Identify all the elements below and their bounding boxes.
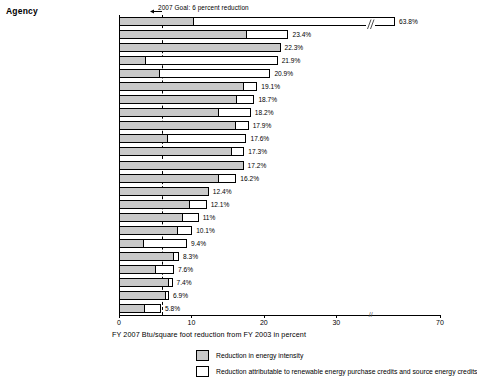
bar-segment-renewable-credits [236, 95, 254, 104]
bar-value-label: 16.2% [240, 174, 259, 183]
bar-segment-renewable-credits [177, 226, 192, 235]
bar-value-label: 12.4% [213, 187, 232, 196]
chart-legend: Reduction in energy intensity Reduction … [196, 350, 477, 382]
bar-segment-renewable-credits [235, 121, 249, 130]
bar-value-label: 23.4% [293, 30, 312, 39]
legend-label-intensity: Reduction in energy intensity [216, 352, 303, 359]
bar-segment-renewable-credits [218, 174, 237, 183]
bar-segment-renewable-credits [173, 252, 179, 261]
x-axis-line [119, 315, 440, 316]
stacked-bar [119, 304, 161, 313]
x-axis-tick [336, 315, 337, 318]
stacked-bar [119, 291, 169, 300]
bar-value-label: 21.9% [282, 56, 301, 65]
bar-segment-energy-intensity [119, 239, 143, 248]
bar-segment-energy-intensity [119, 200, 189, 209]
bar-value-label: 11% [203, 213, 216, 222]
bar-segment-energy-intensity [119, 69, 159, 78]
bar-segment-renewable-credits [168, 278, 173, 287]
stacked-bar [119, 161, 244, 170]
bar-segment-renewable-credits [193, 17, 395, 26]
goal-annotation-label: 2007 Goal: 6 percent reduction [158, 4, 249, 11]
plot-area: EPA63.8%Interior23.4%Commerce22.3%Transp… [119, 15, 440, 315]
bar-segment-renewable-credits [189, 200, 207, 209]
bar-value-label: 19.1% [261, 82, 280, 91]
bar-segment-energy-intensity [119, 82, 243, 91]
bar-segment-energy-intensity [119, 278, 168, 287]
legend-swatch-credits-icon [196, 366, 209, 377]
stacked-bar [119, 43, 281, 52]
bar-value-label: 9.4% [191, 239, 206, 248]
x-axis-tick-label: 10 [188, 319, 196, 326]
stacked-bar [119, 82, 257, 91]
bar-segment-renewable-credits [218, 108, 251, 117]
bar-value-label: 10.1% [196, 226, 215, 235]
stacked-bar [119, 187, 209, 196]
stacked-bar [119, 147, 244, 156]
bar-value-label: 5.8% [165, 304, 180, 313]
stacked-bar [119, 226, 192, 235]
bar-segment-energy-intensity [119, 174, 218, 183]
stacked-bar [119, 239, 187, 248]
stacked-bar [119, 17, 395, 26]
bar-segment-energy-intensity [119, 291, 165, 300]
stacked-bar [119, 265, 174, 274]
bar-value-label: 8.3% [183, 252, 198, 261]
bar-segment-energy-intensity [119, 265, 155, 274]
stacked-bar [119, 134, 246, 143]
stacked-bar [119, 174, 236, 183]
stacked-bar [119, 121, 249, 130]
bar-segment-renewable-credits [155, 265, 174, 274]
bar-segment-energy-intensity [119, 161, 244, 170]
bar-segment-energy-intensity [119, 147, 231, 156]
stacked-bar [119, 213, 199, 222]
x-axis-tick [119, 315, 120, 318]
bar-value-label: 6.9% [173, 291, 188, 300]
bar-value-label: 22.3% [285, 43, 304, 52]
legend-item-intensity: Reduction in energy intensity [196, 350, 477, 361]
x-axis-tick [440, 315, 441, 318]
bar-value-label: 20.9% [274, 69, 293, 78]
stacked-bar [119, 278, 173, 287]
x-axis-tick-label: 20 [260, 319, 268, 326]
bar-value-label: 18.2% [255, 108, 274, 117]
bar-value-label: 17.3% [248, 147, 267, 156]
bar-break-marker-icon [366, 16, 375, 27]
bar-segment-renewable-credits [144, 304, 161, 313]
bar-segment-energy-intensity [119, 56, 145, 65]
bar-value-label: 7.6% [178, 265, 193, 274]
bar-segment-renewable-credits [165, 291, 169, 300]
bar-value-label: 17.6% [250, 134, 269, 143]
bar-value-label: 7.4% [177, 278, 192, 287]
y-axis-header: Agency [6, 6, 38, 16]
bar-value-label: 18.7% [258, 95, 277, 104]
x-axis-tick [264, 315, 265, 318]
stacked-bar [119, 252, 179, 261]
bar-segment-energy-intensity [119, 43, 281, 52]
bar-segment-energy-intensity [119, 108, 218, 117]
stacked-bar [119, 108, 251, 117]
bar-segment-renewable-credits [243, 82, 257, 91]
bar-segment-renewable-credits [182, 213, 199, 222]
legend-swatch-intensity-icon [196, 350, 209, 361]
bar-segment-energy-intensity [119, 121, 235, 130]
x-axis-break-marker: // [369, 311, 373, 318]
bar-segment-renewable-credits [231, 147, 244, 156]
bar-segment-energy-intensity [119, 213, 182, 222]
x-axis-tick [191, 315, 192, 318]
bar-segment-renewable-credits [246, 30, 288, 39]
x-axis-tick-label: 70 [436, 319, 444, 326]
bar-value-label: 12.1% [211, 200, 230, 209]
stacked-bar [119, 95, 254, 104]
stacked-bar [119, 56, 278, 65]
bar-value-label: 17.2% [248, 161, 267, 170]
x-axis-tick-label: 30 [332, 319, 340, 326]
bar-segment-renewable-credits [145, 56, 278, 65]
bar-segment-energy-intensity [119, 252, 173, 261]
x-axis-tick-label: 0 [117, 319, 121, 326]
bar-segment-renewable-credits [167, 134, 247, 143]
bar-segment-energy-intensity [119, 95, 236, 104]
bar-segment-energy-intensity [119, 304, 144, 313]
bar-value-label: 63.8% [399, 17, 418, 26]
